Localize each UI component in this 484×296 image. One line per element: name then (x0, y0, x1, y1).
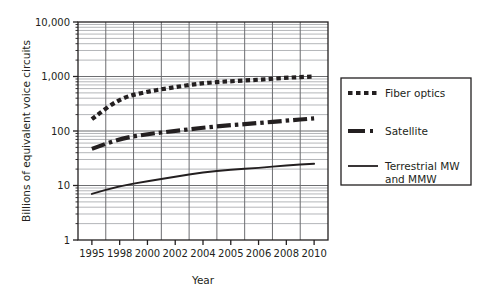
y-axis-tick-label: 100 (51, 126, 70, 137)
legend-label-terrestrial-line2: and MMW (385, 173, 437, 185)
legend-label-satellite: Satellite (385, 125, 428, 137)
x-axis-tick-label: 2002 (162, 248, 187, 259)
x-axis-tick-labels: 199519982000200220042005200620082010 (79, 248, 327, 259)
x-axis-tick-label: 2010 (301, 248, 326, 259)
x-axis-tick-label: 2006 (246, 248, 271, 259)
y-axis-tick-label: 10,000 (35, 17, 70, 28)
x-axis-title: Year (191, 274, 215, 286)
x-axis-tick-label: 2008 (274, 248, 299, 259)
x-axis-tick-label: 2005 (218, 248, 243, 259)
chart-figure: 1101001,00010,000 1995199820002002200420… (0, 0, 484, 296)
y-axis-tick-label: 1 (64, 235, 70, 246)
y-axis-title: Billions of equivalent voice circuits (20, 40, 32, 222)
x-axis-tick-label: 2004 (190, 248, 215, 259)
y-axis-tick-label: 10 (57, 180, 70, 191)
x-axis-tick-label: 2000 (135, 248, 160, 259)
legend-label-fiber-optics: Fiber optics (385, 87, 445, 99)
chart-legend: Fiber optics Satellite Terrestrial MW an… (341, 78, 471, 185)
x-axis-tick-label: 1998 (107, 248, 132, 259)
y-axis-tick-label: 1,000 (41, 71, 70, 82)
x-axis-tick-label: 1995 (79, 248, 104, 259)
legend-label-terrestrial-line1: Terrestrial MW (384, 160, 460, 172)
chart-svg: 1101001,00010,000 1995199820002002200420… (0, 0, 484, 296)
